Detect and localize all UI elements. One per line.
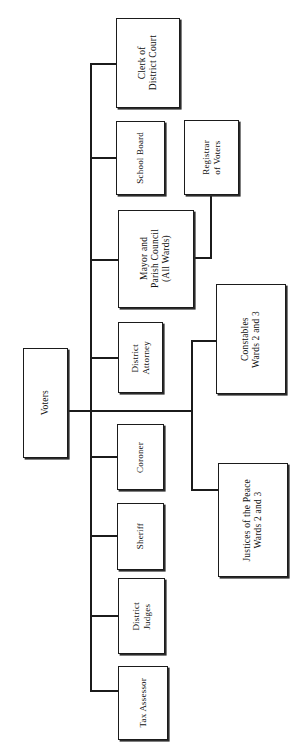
node-district-judges-label: District Judges — [131, 602, 152, 631]
node-clerk-of-district-court-label: Clerk of District Court — [137, 35, 159, 90]
node-justices-of-the-peace-wards-2-and-3-label: Justices of the Peace Wards 2 and 3 — [242, 479, 264, 562]
connector-to-school-board — [90, 157, 118, 159]
connector-to-district-attorney — [90, 357, 119, 359]
connector-registrar-to-council — [193, 257, 212, 259]
connector-right-spine — [191, 340, 193, 491]
connector-to-justices-of-the-peace — [191, 489, 219, 491]
org-chart-canvas: Voters Clerk of District Court School Bo… — [0, 0, 295, 746]
connector-to-district-judges — [90, 615, 119, 617]
node-district-attorney-label: District Attorney — [130, 341, 151, 375]
connector-to-sheriff — [90, 535, 119, 537]
node-clerk-of-district-court[interactable]: Clerk of District Court — [116, 18, 180, 108]
node-coroner[interactable]: Coroner — [117, 424, 164, 490]
node-registrar-of-voters[interactable]: Registrar of Voters — [184, 120, 239, 195]
node-sheriff-label: Sheriff — [135, 523, 146, 549]
node-tax-assessor[interactable]: Tax Assessor — [118, 666, 168, 740]
node-sheriff[interactable]: Sheriff — [117, 503, 164, 570]
connector-voters-trunk — [66, 410, 193, 412]
node-school-board[interactable]: School Board — [116, 121, 165, 195]
connector-to-constables — [191, 340, 218, 342]
connector-to-mayor-and-parish-council — [90, 259, 119, 261]
node-district-attorney[interactable]: District Attorney — [118, 322, 163, 393]
node-constables-wards-2-and-3[interactable]: Constables Wards 2 and 3 — [216, 284, 286, 394]
node-constables-wards-2-and-3-label: Constables Wards 2 and 3 — [240, 311, 262, 368]
node-voters-label: Voters — [40, 390, 51, 415]
connector-to-clerk-of-district-court — [90, 63, 118, 65]
connector-to-tax-assessor — [90, 690, 120, 692]
node-voters[interactable]: Voters — [23, 348, 68, 458]
node-tax-assessor-label: Tax Assessor — [138, 678, 149, 728]
connector-registrar-drop — [210, 194, 212, 259]
node-coroner-label: Coroner — [135, 442, 146, 473]
node-registrar-of-voters-label: Registrar of Voters — [201, 140, 222, 175]
node-mayor-and-parish-council[interactable]: Mayor and Parish Council (All Wards) — [118, 210, 194, 308]
connector-to-coroner — [90, 456, 119, 458]
node-mayor-and-parish-council-label: Mayor and Parish Council (All Wards) — [139, 229, 173, 288]
node-justices-of-the-peace-wards-2-and-3[interactable]: Justices of the Peace Wards 2 and 3 — [218, 463, 288, 577]
node-district-judges[interactable]: District Judges — [118, 578, 165, 654]
node-school-board-label: School Board — [135, 132, 146, 184]
